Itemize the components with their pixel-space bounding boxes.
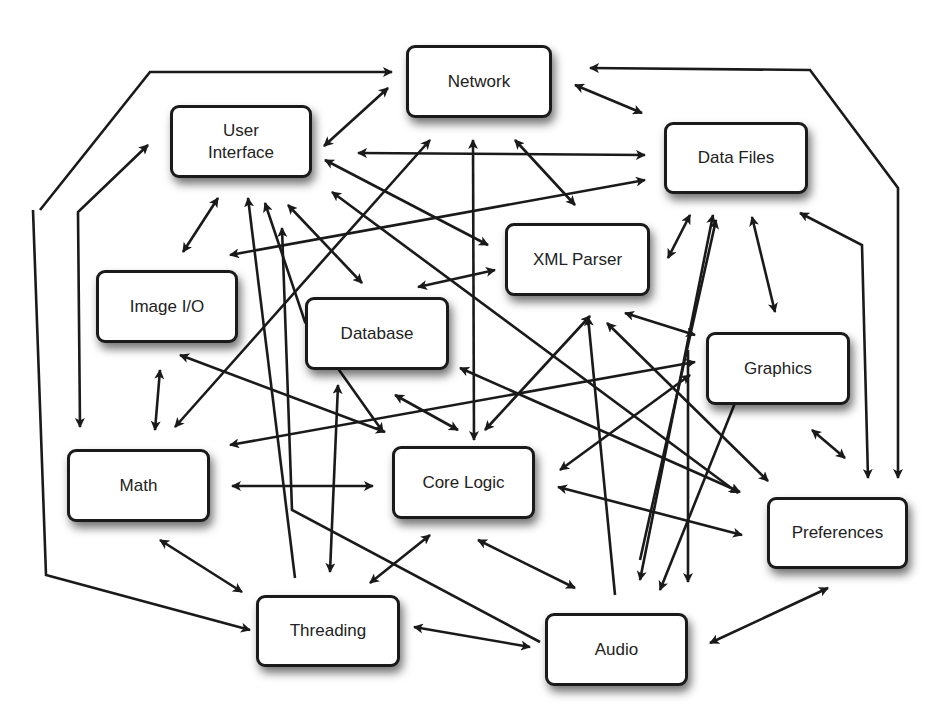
connection-arrow (575, 85, 642, 113)
node-label: XML Parser (533, 249, 622, 270)
node-graphics: Graphics (706, 332, 850, 405)
node-label: Network (448, 71, 510, 92)
connection-arrow (478, 540, 575, 588)
node-ui: User Interface (170, 105, 312, 178)
node-label: Math (120, 475, 158, 496)
node-database: Database (305, 297, 449, 370)
node-datafiles: Data Files (664, 122, 808, 194)
node-xml: XML Parser (505, 223, 650, 296)
node-label: Preferences (792, 522, 884, 543)
node-threading: Threading (256, 595, 400, 667)
connection-arrow (812, 430, 845, 458)
connection-arrow (473, 140, 474, 440)
node-label: Image I/O (130, 296, 205, 317)
node-audio: Audio (545, 613, 688, 686)
node-label: Audio (595, 639, 638, 660)
connection-arrow (414, 627, 530, 647)
connection-arrow (282, 228, 540, 642)
connection-arrow (588, 317, 615, 595)
connection-arrow (515, 140, 575, 205)
node-label: Data Files (698, 147, 775, 168)
connection-arrow (160, 540, 242, 592)
node-imageio: Image I/O (96, 270, 238, 343)
connection-arrow (155, 370, 160, 430)
connection-arrow (230, 362, 695, 445)
node-label: Core Logic (422, 472, 504, 493)
node-preferences: Preferences (767, 497, 908, 569)
node-label: Threading (290, 620, 367, 641)
node-math: Math (67, 449, 210, 522)
connection-arrow (358, 153, 645, 155)
connection-arrow (710, 588, 828, 643)
connection-arrow (668, 215, 690, 258)
node-label: User Interface (208, 120, 274, 163)
connection-arrow (395, 395, 458, 430)
node-corelogic: Core Logic (392, 446, 535, 519)
connection-arrow (752, 217, 775, 312)
node-label: Graphics (744, 358, 812, 379)
connection-arrow (640, 220, 716, 560)
connection-arrow (288, 205, 362, 283)
connection-arrow (183, 198, 218, 252)
connection-arrow (370, 535, 430, 583)
dependency-diagram: NetworkUser InterfaceData FilesXML Parse… (0, 0, 951, 723)
node-network: Network (406, 45, 552, 118)
connection-arrow (625, 313, 695, 335)
connection-arrow (324, 88, 388, 146)
node-label: Database (341, 323, 414, 344)
